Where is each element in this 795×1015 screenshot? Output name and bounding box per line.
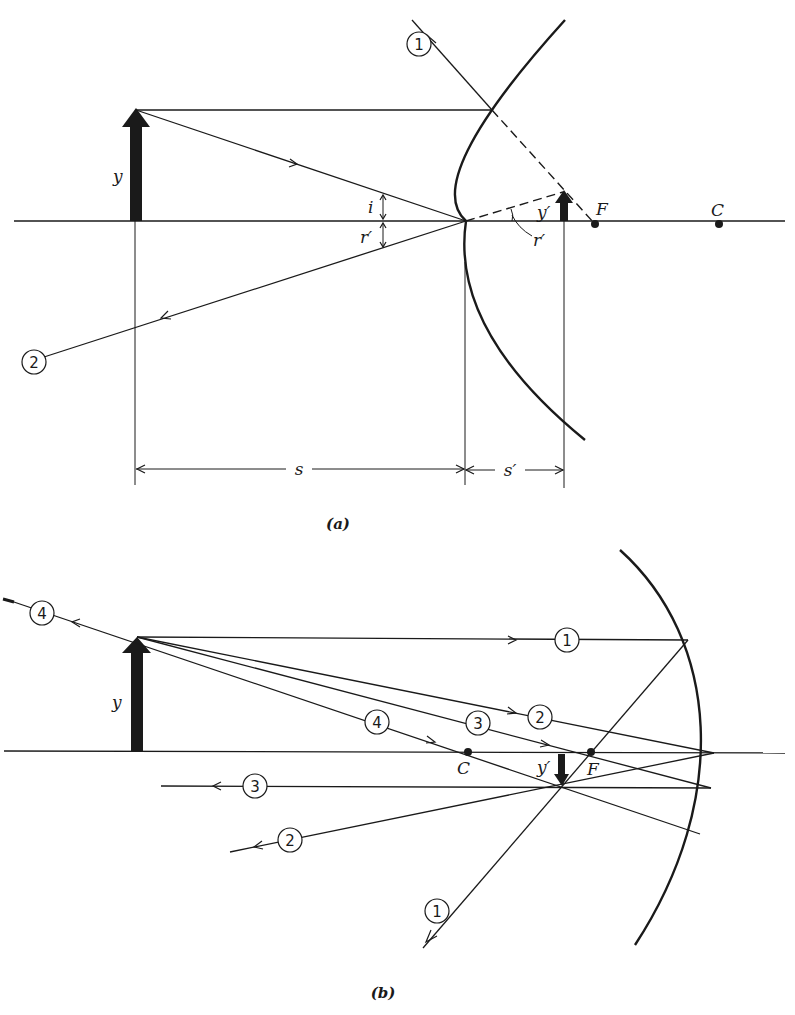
- image-arrow-a: [555, 190, 573, 221]
- ray-4-end-tick: [3, 599, 14, 602]
- angle-r-image-label: r′: [533, 230, 545, 250]
- center-point-a: [715, 220, 723, 228]
- ray-2-label-b-reflected: 2: [285, 832, 295, 850]
- ray-3-label-b: 3: [473, 715, 483, 733]
- angle-r-label: r′: [360, 227, 372, 247]
- image-label-a: y′: [536, 202, 551, 222]
- caption-b: (b): [371, 984, 396, 1002]
- figure-a: y 1 2 i r′: [14, 20, 785, 533]
- figure-b: y 1 1 2 2 3 3 4 4: [3, 550, 785, 1002]
- object-arrow-a: [122, 108, 150, 221]
- image-distance-label: s′: [504, 460, 517, 480]
- angle-r-marker: [380, 223, 386, 247]
- object-arrow-b: [122, 637, 151, 751]
- angle-i-label: i: [368, 197, 373, 217]
- ray-4-label-b-reflected: 4: [37, 605, 47, 623]
- focal-label-a: F: [595, 199, 609, 219]
- center-label-a: C: [711, 200, 724, 220]
- image-label-b: y′: [536, 757, 551, 777]
- focal-point-b: [587, 748, 595, 756]
- ray-2-label-a: 2: [29, 354, 39, 372]
- ray-1-reflected-b: [423, 640, 688, 948]
- center-point-b: [464, 748, 472, 756]
- ray-1-label-a: 1: [414, 36, 424, 54]
- ray-4-line-b: [8, 600, 700, 834]
- ray-3-label-b-reflected: 3: [250, 778, 260, 796]
- ray-4-label-b: 4: [372, 714, 382, 732]
- object-distance-label: s: [295, 459, 304, 479]
- optical-axis-b: [4, 751, 785, 753]
- object-label-a: y: [112, 166, 123, 186]
- ray-2-arrow-b: [507, 707, 516, 714]
- ray-1-label-b: 1: [562, 632, 572, 650]
- angle-i-marker: [380, 195, 386, 219]
- ray-2-incident-b: [137, 637, 714, 753]
- ray-2-incident-a: [136, 110, 466, 221]
- ray-1-label-b-reflected: 1: [432, 903, 442, 921]
- ray-2-reflected-a: [44, 221, 466, 357]
- ray-2-reflected-b: [230, 753, 714, 852]
- mirror-ray-diagram: y 1 2 i r′: [0, 0, 795, 1015]
- convex-mirror: [455, 20, 585, 440]
- ray-1-reflected-arrow-b: [426, 930, 437, 942]
- ray-1-incident-b: [137, 637, 688, 640]
- angle-r-image-leader: [512, 215, 532, 236]
- center-label-b: C: [457, 758, 470, 778]
- ray-1-arrow-b: [508, 636, 516, 644]
- object-label-b: y: [111, 692, 122, 712]
- focal-label-b: F: [586, 759, 600, 779]
- ray-2-label-b: 2: [535, 709, 545, 727]
- focal-point-a: [591, 220, 599, 228]
- caption-a: (a): [326, 515, 350, 533]
